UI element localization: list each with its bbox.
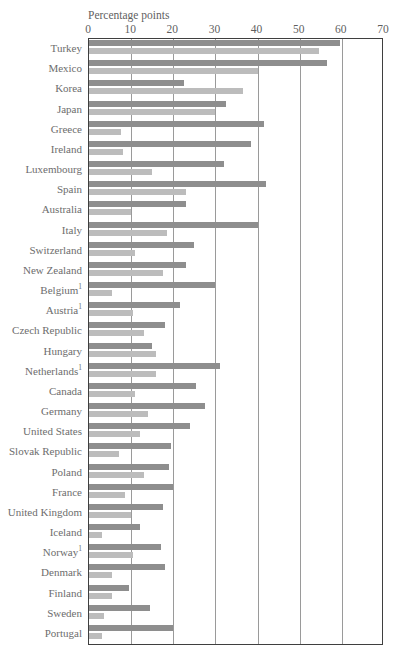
- bar-series-1: [89, 544, 161, 550]
- x-axis-tick-labels: 010203040506070: [0, 23, 393, 37]
- bar-series-2: [89, 572, 112, 578]
- bar-row: [89, 382, 382, 402]
- category-label: Poland: [51, 466, 82, 478]
- bar-row: [89, 301, 382, 321]
- category-label: Iceland: [50, 526, 82, 538]
- bar-series-2: [89, 552, 133, 558]
- bar-series-1: [89, 80, 184, 86]
- bar-series-1: [89, 201, 186, 207]
- category-label: Italy: [62, 224, 82, 236]
- bar-row: [89, 79, 382, 99]
- x-tick-label-60: 60: [335, 23, 347, 35]
- bar-series-1: [89, 443, 171, 449]
- category-label: France: [52, 486, 82, 498]
- category-label: Slovak Republic: [9, 445, 82, 457]
- x-tick-label-0: 0: [85, 23, 91, 35]
- bar-row: [89, 463, 382, 483]
- x-tick-label-30: 30: [209, 23, 221, 35]
- bar-series-2: [89, 330, 144, 336]
- bar-row: [89, 100, 382, 120]
- category-label: Czech Republic: [12, 324, 82, 336]
- bar-series-2: [89, 270, 163, 276]
- category-label: Luxembourg: [25, 163, 82, 175]
- bar-series-2: [89, 129, 121, 135]
- bar-row: [89, 483, 382, 503]
- bar-series-1: [89, 585, 129, 591]
- bar-series-2: [89, 169, 152, 175]
- bar-row: [89, 200, 382, 220]
- x-tick-label-70: 70: [377, 23, 389, 35]
- bar-row: [89, 402, 382, 422]
- bar-row: [89, 140, 382, 160]
- bar-series-2: [89, 613, 104, 619]
- category-labels: TurkeyMexicoKoreaJapanGreeceIrelandLuxem…: [0, 38, 86, 645]
- category-label: Turkey: [51, 42, 82, 54]
- category-label: Mexico: [48, 62, 82, 74]
- bar-series-2: [89, 290, 112, 296]
- bar-series-2: [89, 48, 319, 54]
- bar-row: [89, 422, 382, 442]
- x-tick-label-20: 20: [167, 23, 179, 35]
- bar-row: [89, 442, 382, 462]
- bar-series-1: [89, 181, 266, 187]
- category-label: Greece: [51, 123, 82, 135]
- bar-series-2: [89, 532, 102, 538]
- category-label: Finland: [48, 587, 82, 599]
- category-label: Netherlands1: [25, 365, 82, 377]
- category-label: United States: [23, 425, 82, 437]
- bar-series-1: [89, 564, 165, 570]
- category-label: United Kingdom: [8, 506, 82, 518]
- category-label: Korea: [55, 82, 82, 94]
- category-label: Australia: [42, 203, 82, 215]
- bar-row: [89, 120, 382, 140]
- bar-series-2: [89, 351, 156, 357]
- bar-series-2: [89, 230, 167, 236]
- bar-series-2: [89, 451, 119, 457]
- category-label: Austria1: [46, 304, 82, 316]
- category-label: Germany: [41, 405, 82, 417]
- bar-series-1: [89, 121, 264, 127]
- bar-series-1: [89, 222, 258, 228]
- cropped-title-text: [86, 0, 386, 9]
- bar-series-1: [89, 625, 173, 631]
- bar-row: [89, 281, 382, 301]
- bar-series-1: [89, 161, 224, 167]
- bar-row: [89, 543, 382, 563]
- category-label: Canada: [49, 385, 82, 397]
- bar-row: [89, 624, 382, 644]
- bar-series-2: [89, 109, 215, 115]
- bar-row: [89, 39, 382, 59]
- bar-row: [89, 180, 382, 200]
- bar-series-1: [89, 101, 226, 107]
- bar-row: [89, 503, 382, 523]
- bar-series-2: [89, 310, 133, 316]
- bar-series-2: [89, 189, 186, 195]
- bar-series-1: [89, 242, 194, 248]
- bar-series-2: [89, 512, 131, 518]
- bar-series-1: [89, 423, 190, 429]
- bar-series-2: [89, 391, 135, 397]
- bar-row: [89, 160, 382, 180]
- category-label: Portugal: [45, 627, 82, 639]
- category-label: Ireland: [51, 143, 82, 155]
- x-axis-label: Percentage points: [88, 9, 169, 21]
- bar-row: [89, 584, 382, 604]
- bar-row: [89, 241, 382, 261]
- bar-series-1: [89, 343, 152, 349]
- bar-series-1: [89, 262, 186, 268]
- bar-series-1: [89, 40, 340, 46]
- bar-series-2: [89, 472, 144, 478]
- chart-container: Percentage points 010203040506070 Turkey…: [0, 0, 393, 653]
- bar-row: [89, 604, 382, 624]
- category-label: Spain: [57, 183, 82, 195]
- bar-series-1: [89, 605, 150, 611]
- bar-series-1: [89, 383, 196, 389]
- bar-row: [89, 321, 382, 341]
- category-label: Hungary: [44, 345, 83, 357]
- category-label: Denmark: [41, 566, 82, 578]
- bar-row: [89, 59, 382, 79]
- x-tick-label-50: 50: [293, 23, 305, 35]
- bar-series-1: [89, 60, 327, 66]
- bar-series-1: [89, 403, 205, 409]
- bar-row: [89, 523, 382, 543]
